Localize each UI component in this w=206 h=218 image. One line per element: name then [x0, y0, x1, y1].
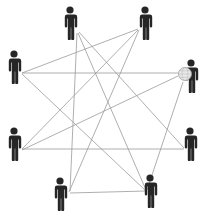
person-icon	[145, 174, 157, 208]
node-p2	[140, 6, 152, 40]
edge-p1-p6	[79, 32, 184, 148]
network-diagram	[0, 0, 206, 218]
connection-lines	[22, 29, 184, 193]
node-p7	[55, 177, 67, 211]
edge-p4-p8	[147, 82, 183, 190]
person-icon	[185, 127, 197, 161]
person-icon	[9, 127, 21, 161]
node-p3	[9, 50, 21, 84]
node-p5	[9, 127, 21, 161]
person-icon	[65, 6, 77, 40]
edge-p4-p5	[22, 76, 178, 150]
globe-icon	[179, 68, 192, 81]
person-icon	[55, 177, 67, 211]
edge-p2-p3	[22, 29, 138, 73]
person-icon	[140, 6, 152, 40]
person-icon	[9, 50, 21, 84]
node-p6	[185, 127, 197, 161]
edge-p1-p7	[70, 33, 77, 191]
people-nodes	[9, 6, 198, 211]
edge-p7-p8	[70, 191, 146, 193]
edge-p3-p8	[22, 74, 146, 191]
node-p1	[65, 6, 77, 40]
node-p8	[145, 174, 157, 208]
node-p4	[179, 59, 199, 93]
